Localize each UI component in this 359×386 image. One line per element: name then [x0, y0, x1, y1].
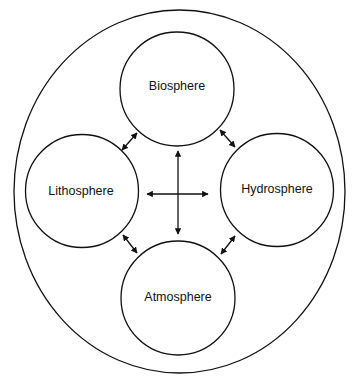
node-atmosphere: Atmosphere: [121, 241, 235, 355]
node-biosphere: Biosphere: [120, 32, 234, 146]
node-lithosphere: Lithosphere: [26, 135, 139, 248]
central-cross-arrows: [147, 151, 208, 234]
earth-systems-diagram: Biosphere Lithosphere Hydrosphere Atmosp…: [0, 0, 359, 386]
arrow-lithosphere-atmosphere: [123, 235, 137, 253]
atmosphere-label: Atmosphere: [144, 290, 211, 304]
biosphere-label: Biosphere: [149, 79, 205, 93]
arrow-biosphere-lithosphere: [122, 133, 137, 150]
hydrosphere-label: Hydrosphere: [241, 182, 313, 196]
arrow-biosphere-hydrosphere: [220, 130, 235, 147]
node-hydrosphere: Hydrosphere: [221, 134, 334, 247]
lithosphere-label: Lithosphere: [48, 184, 113, 198]
arrow-hydrosphere-atmosphere: [221, 236, 235, 254]
